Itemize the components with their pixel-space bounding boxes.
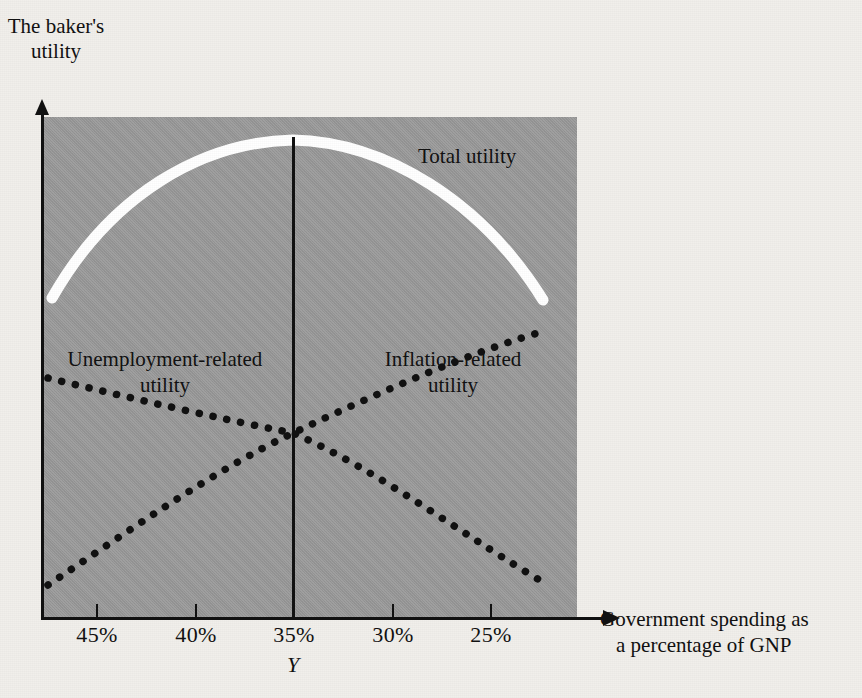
inflation-related-utility-label: Inflation-related utility [338, 346, 568, 398]
x-axis-tick-label: 35% [249, 622, 339, 648]
unemployment-label-line2: utility [140, 373, 190, 397]
x-axis-title-line1: Government spending as [600, 607, 809, 631]
x-axis-tick-label: 25% [446, 622, 536, 648]
x-axis-tick [293, 604, 295, 617]
figure-container: The baker's utility Total utility Unempl… [0, 0, 862, 698]
unemployment-related-utility-label: Unemployment-related utility [34, 346, 296, 398]
inflation-label-line2: utility [428, 373, 478, 397]
x-axis-tick [490, 604, 492, 617]
y-axis-title: The baker's utility [0, 14, 112, 64]
x-axis-tick [195, 604, 197, 617]
x-axis-tick-label: 30% [348, 622, 438, 648]
x-axis-line [41, 617, 607, 620]
x-axis-tick-label: 45% [52, 622, 142, 648]
total-utility-label: Total utility [418, 143, 598, 169]
x-axis-tick-label: 40% [151, 622, 241, 648]
y-axis-arrow-icon [35, 99, 49, 115]
unemployment-label-line1: Unemployment-related [68, 347, 263, 371]
x-axis-tick [96, 604, 98, 617]
optimum-marker-label: Y [248, 652, 338, 678]
x-axis-title: Government spending as a percentage of G… [600, 606, 860, 658]
x-axis-tick [392, 604, 394, 617]
x-axis-title-line2: a percentage of GNP [600, 632, 860, 658]
inflation-label-line1: Inflation-related [385, 347, 521, 371]
